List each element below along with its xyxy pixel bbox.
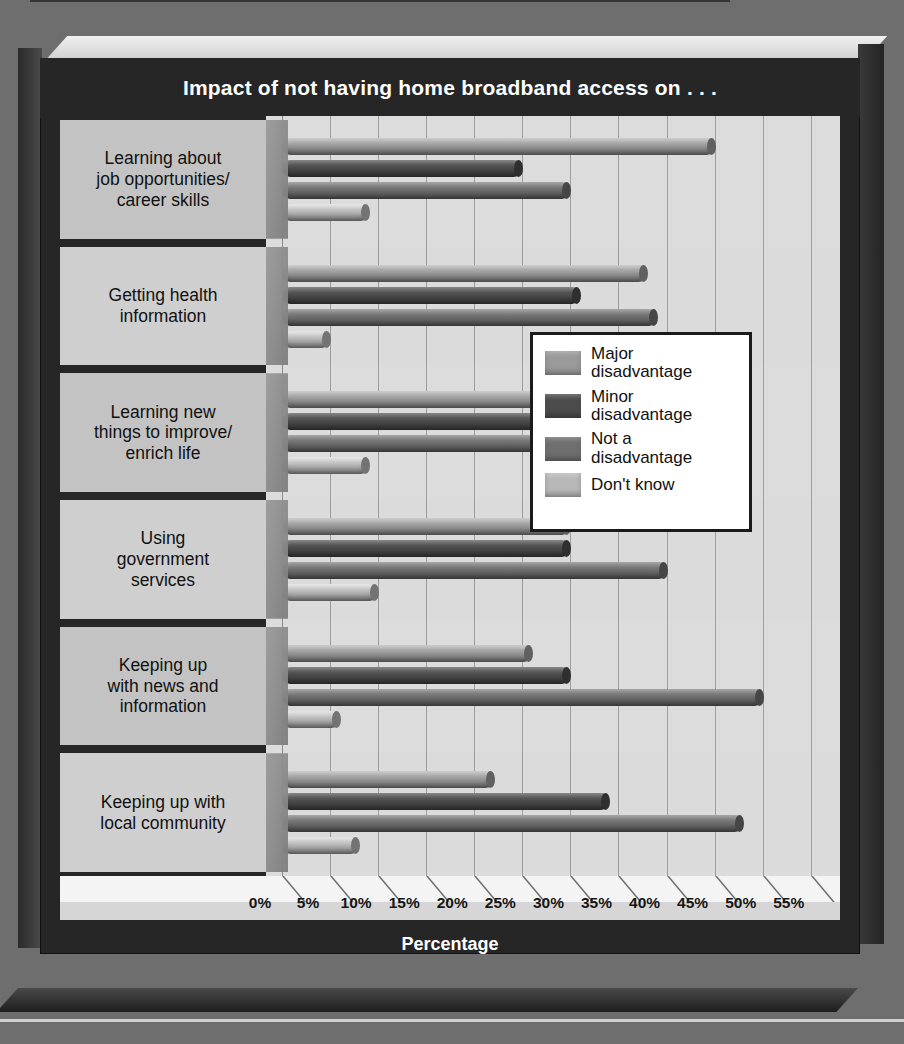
bar-2-4 [282, 331, 330, 348]
legend-label-minor-line1: Minor [591, 387, 634, 406]
bar-5-1 [282, 645, 532, 662]
legend-label-dont-know: Don't know [591, 476, 675, 494]
bar-end-cap [755, 689, 764, 706]
x-tick-label-25: 25% [485, 894, 516, 912]
bar-5-3 [282, 689, 763, 706]
chart-title-strip: Impact of not having home broadband acce… [40, 58, 860, 118]
x-tick-label-45: 45% [677, 894, 708, 912]
category-band-wedge [266, 247, 288, 366]
x-tick-label-0: 0% [249, 894, 271, 912]
bar-1-1 [282, 138, 715, 155]
legend-item-dont-know: Don't know [545, 473, 739, 497]
bar-end-cap [370, 584, 379, 601]
bar-end-cap [601, 793, 610, 810]
x-tick-label-20: 20% [437, 894, 468, 912]
legend-label-not-a-line2: disadvantage [591, 448, 692, 467]
bar-6-3 [282, 815, 743, 832]
x-tick-label-5: 5% [297, 894, 319, 912]
category-band-wedge [266, 373, 288, 492]
legend-item-minor: Minor disadvantage [545, 388, 739, 425]
x-tick-label-15: 15% [389, 894, 420, 912]
bar-5-4 [282, 711, 340, 728]
bar-2-1 [282, 265, 647, 282]
bar-end-cap [649, 309, 658, 326]
bar-end-cap [486, 771, 495, 788]
bar-end-cap [361, 204, 370, 221]
bar-6-2 [282, 793, 609, 810]
legend-label-minor: Minor disadvantage [591, 388, 692, 425]
category-label-text: Learning newthings to improve/enrich lif… [94, 402, 232, 464]
bar-end-cap [707, 138, 716, 155]
legend-swatch-minor [545, 394, 581, 418]
bar-end-cap [659, 562, 668, 579]
x-axis-tick-labels: 0%5%10%15%20%25%30%35%40%45%50%55% [60, 894, 840, 920]
bar-4-1 [282, 518, 570, 535]
category-label-5: Keeping upwith news andinformation [60, 627, 266, 746]
category-label-text: Learning aboutjob opportunities/career s… [96, 148, 229, 210]
category-label-4: Usinggovernmentservices [60, 500, 266, 619]
category-label-text: Keeping upwith news andinformation [108, 655, 219, 717]
bar-end-cap [332, 711, 341, 728]
category-label-text: Usinggovernmentservices [117, 528, 209, 590]
chart-right-edge [858, 44, 884, 944]
legend-label-minor-line2: disadvantage [591, 405, 692, 424]
bar-2-3 [282, 309, 657, 326]
legend-swatch-dont-know [545, 473, 581, 497]
category-label-text: Keeping up withlocal community [100, 792, 225, 833]
bottom-separator [0, 1019, 904, 1044]
category-band-wedge [266, 627, 288, 746]
bar-4-4 [282, 584, 378, 601]
bar-end-cap [524, 645, 533, 662]
bar-1-4 [282, 204, 369, 221]
legend-label-major-line2: disadvantage [591, 362, 692, 381]
bar-end-cap [361, 457, 370, 474]
figure-root: Impact of not having home broadband acce… [0, 0, 904, 1044]
x-tick-label-50: 50% [725, 894, 756, 912]
legend-item-not-a: Not a disadvantage [545, 430, 739, 467]
chart-bottom-edge [0, 988, 858, 1012]
bar-4-3 [282, 562, 667, 579]
partial-figure-above [30, 0, 730, 8]
category-band-wedge [266, 120, 288, 239]
category-band-wedge [266, 500, 288, 619]
x-tick-label-40: 40% [629, 894, 660, 912]
bar-6-4 [282, 837, 359, 854]
chart-3d-container: Impact of not having home broadband acce… [18, 18, 884, 1018]
chart-title: Impact of not having home broadband acce… [183, 76, 717, 100]
bar-end-cap [572, 287, 581, 304]
legend-label-major-line1: Major [591, 344, 634, 363]
x-tick-label-10: 10% [341, 894, 372, 912]
x-tick-label-30: 30% [533, 894, 564, 912]
bar-4-2 [282, 540, 570, 557]
chart-face: Impact of not having home broadband acce… [40, 58, 860, 954]
legend-label-not-a: Not a disadvantage [591, 430, 692, 467]
category-label-column: Learning aboutjob opportunities/career s… [60, 116, 266, 876]
bar-6-1 [282, 771, 494, 788]
plot-wrapper: Learning aboutjob opportunities/career s… [60, 116, 840, 936]
bar-5-2 [282, 667, 570, 684]
legend-label-not-a-line1: Not a [591, 429, 632, 448]
x-tick-label-55: 55% [773, 894, 804, 912]
category-label-6: Keeping up withlocal community [60, 753, 266, 872]
x-tick-label-35: 35% [581, 894, 612, 912]
category-label-1: Learning aboutjob opportunities/career s… [60, 120, 266, 239]
x-axis-title: Percentage [40, 934, 860, 955]
category-band-wedge [266, 753, 288, 872]
bar-3-4 [282, 457, 369, 474]
bar-end-cap [351, 837, 360, 854]
chart-left-edge [18, 48, 42, 948]
bar-2-2 [282, 287, 580, 304]
category-label-3: Learning newthings to improve/enrich lif… [60, 373, 266, 492]
category-label-2: Getting healthinformation [60, 247, 266, 366]
bar-1-2 [282, 160, 522, 177]
legend-item-major: Major disadvantage [545, 345, 739, 382]
chart-legend: Major disadvantage Minor disadvantage [530, 332, 752, 532]
legend-swatch-not-a [545, 437, 581, 461]
top-sliver [0, 0, 904, 14]
legend-swatch-major [545, 351, 581, 375]
bar-end-cap [322, 331, 331, 348]
bar-1-3 [282, 182, 570, 199]
category-label-text: Getting healthinformation [109, 285, 218, 326]
legend-label-major: Major disadvantage [591, 345, 692, 382]
